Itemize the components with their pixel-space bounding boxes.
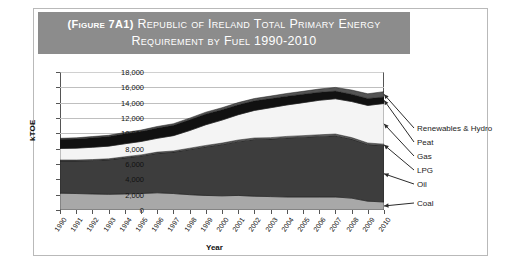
- y-axis-tick-mark: [56, 195, 60, 196]
- x-axis-tick-mark: [271, 210, 272, 214]
- figure-title-line-2: Requirement by Fuel 1990-2010: [131, 33, 316, 50]
- x-axis-tick-mark: [125, 210, 126, 214]
- x-axis-title: Year: [206, 243, 223, 252]
- legend-leader-lines: [380, 60, 531, 220]
- y-axis-tick-label: 14,000: [104, 98, 144, 107]
- legend-label-lpg: LPG: [417, 166, 433, 175]
- leader-line: [384, 124, 414, 156]
- y-axis-tick-label: 18,000: [104, 68, 144, 77]
- leader-line: [384, 145, 414, 170]
- x-axis-tick-mark: [60, 210, 61, 214]
- legend-label-renewables-hydro: Renewables & Hydro: [417, 124, 492, 133]
- figure-title-line-1: (Figure 7A1) Republic of Ireland Total P…: [67, 16, 380, 33]
- y-axis-tick-mark: [56, 118, 60, 119]
- y-axis-tick-label: 12,000: [104, 114, 144, 123]
- legend-label-oil: Oil: [417, 180, 427, 189]
- y-axis-tick-mark: [56, 87, 60, 88]
- x-axis-tick-mark: [222, 210, 223, 214]
- leader-line: [384, 203, 414, 206]
- leader-arrowhead: [384, 173, 389, 177]
- legend-label-peat: Peat: [417, 138, 433, 147]
- y-axis-tick-label: 2,000: [104, 190, 144, 199]
- y-axis-tick-label: 16,000: [104, 83, 144, 92]
- y-axis-tick-mark: [56, 72, 60, 73]
- y-axis-tick-label: 10,000: [104, 129, 144, 138]
- leader-arrowhead: [384, 100, 388, 105]
- x-axis-tick-mark: [368, 210, 369, 214]
- x-axis-tick-mark: [319, 210, 320, 214]
- figure-title-banner: (Figure 7A1) Republic of Ireland Total P…: [38, 12, 410, 54]
- legend-label-coal: Coal: [417, 199, 433, 208]
- y-axis-tick-mark: [56, 164, 60, 165]
- figure-number: (Figure 7A1): [67, 18, 133, 30]
- leader-line: [384, 94, 414, 128]
- x-axis-tick-mark: [141, 210, 142, 214]
- x-axis-tick-mark: [92, 210, 93, 214]
- y-axis-tick-label: 4,000: [104, 175, 144, 184]
- y-axis-tick-mark: [56, 179, 60, 180]
- leader-line: [384, 174, 414, 184]
- y-axis-tick-mark: [56, 149, 60, 150]
- x-axis-tick-mark: [303, 210, 304, 214]
- x-axis-tick-mark: [335, 210, 336, 214]
- y-axis-tick-label: 8,000: [104, 144, 144, 153]
- x-axis-tick-mark: [254, 210, 255, 214]
- x-axis-tick-mark: [287, 210, 288, 214]
- figure-container: (Figure 7A1) Republic of Ireland Total P…: [0, 0, 531, 273]
- legend-label-gas: Gas: [417, 152, 432, 161]
- leader-line: [384, 100, 414, 142]
- x-axis-tick-mark: [352, 210, 353, 214]
- x-axis-tick-mark: [190, 210, 191, 214]
- x-axis-tick-mark: [238, 210, 239, 214]
- y-axis-title: kTOE: [28, 119, 37, 141]
- x-axis-tick-mark: [173, 210, 174, 214]
- x-axis-tick-mark: [109, 210, 110, 214]
- figure-title-text: Republic of Ireland Total Primary Energy: [137, 17, 380, 31]
- x-axis-tick-mark: [384, 210, 385, 214]
- y-axis-tick-mark: [56, 103, 60, 104]
- y-axis-tick-label: 6,000: [104, 160, 144, 169]
- x-axis-tick-mark: [76, 210, 77, 214]
- x-axis-tick-mark: [157, 210, 158, 214]
- x-axis-tick-mark: [206, 210, 207, 214]
- y-axis-tick-mark: [56, 133, 60, 134]
